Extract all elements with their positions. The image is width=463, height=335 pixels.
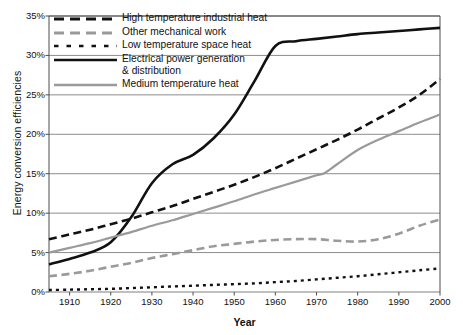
series-line-0: [49, 79, 440, 239]
legend-label-1: Other mechanical work: [117, 26, 226, 38]
legend-swatch-3: [54, 53, 117, 67]
series-line-2: [49, 268, 440, 290]
legend-label-4: Medium temperature heat: [117, 78, 239, 90]
legend-item-3[interactable]: Electrical power generation & distributi…: [54, 53, 294, 78]
legend-label-3: Electrical power generation & distributi…: [117, 53, 245, 78]
legend-label-2: Low temperature space heat: [117, 39, 251, 51]
legend-item-4[interactable]: Medium temperature heat: [54, 78, 294, 92]
series-line-4: [49, 115, 440, 253]
legend-swatch-0: [54, 12, 117, 26]
legend-swatch-2: [54, 39, 117, 53]
legend-item-1[interactable]: Other mechanical work: [54, 26, 294, 40]
legend-item-2[interactable]: Low temperature space heat: [54, 39, 294, 53]
legend-label-0: High temperature industrial heat: [117, 12, 267, 24]
legend-swatch-4: [54, 78, 117, 92]
series-line-1: [49, 219, 440, 276]
energy-conversion-efficiency-chart: Energy conversion efficiencies 0%5%10%15…: [0, 0, 463, 335]
chart-legend: High temperature industrial heatOther me…: [54, 12, 294, 91]
legend-item-0[interactable]: High temperature industrial heat: [54, 12, 294, 26]
legend-swatch-1: [54, 26, 117, 40]
